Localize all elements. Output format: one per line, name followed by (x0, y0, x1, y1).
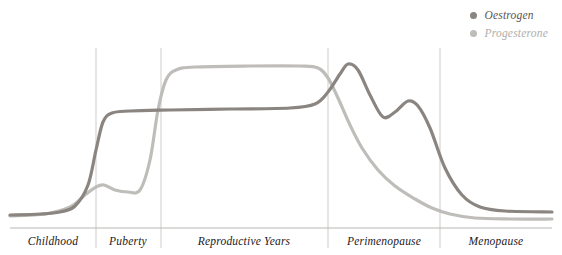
chart-legend: Oestrogen Progesterone (470, 8, 548, 41)
series-paths (10, 64, 552, 219)
legend-label-progesterone: Progesterone (484, 28, 548, 40)
hormone-levels-chart: Oestrogen Progesterone ChildhoodPubertyR… (0, 0, 562, 255)
legend-item-oestrogen[interactable]: Oestrogen (470, 8, 548, 23)
series-line-progesterone (10, 66, 552, 219)
legend-item-progesterone[interactable]: Progesterone (470, 26, 548, 41)
stage-dividers (96, 48, 440, 248)
stage-axis-labels: ChildhoodPubertyReproductive YearsPerime… (0, 232, 562, 254)
stage-label-puberty: Puberty (109, 236, 147, 248)
series-line-oestrogen (10, 64, 552, 215)
stage-label-perimenopause: Perimenopause (347, 236, 421, 248)
stage-label-menopause: Menopause (469, 236, 524, 248)
legend-dot-oestrogen (470, 12, 477, 19)
stage-label-childhood: Childhood (28, 236, 78, 248)
stage-label-reproductive-years: Reproductive Years (198, 236, 291, 248)
legend-label-oestrogen: Oestrogen (484, 10, 533, 22)
legend-dot-progesterone (470, 30, 477, 37)
